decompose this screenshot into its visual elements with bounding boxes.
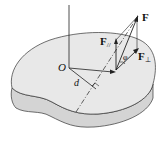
diagram-canvas bbox=[0, 0, 160, 141]
label-f-perp: F⊥ bbox=[138, 51, 151, 64]
label-lever-arm: d bbox=[74, 78, 79, 88]
label-f: F bbox=[142, 12, 149, 23]
label-origin: O bbox=[58, 62, 66, 73]
label-f-parallel: F// bbox=[100, 36, 111, 49]
label-angle: φ bbox=[123, 54, 127, 62]
